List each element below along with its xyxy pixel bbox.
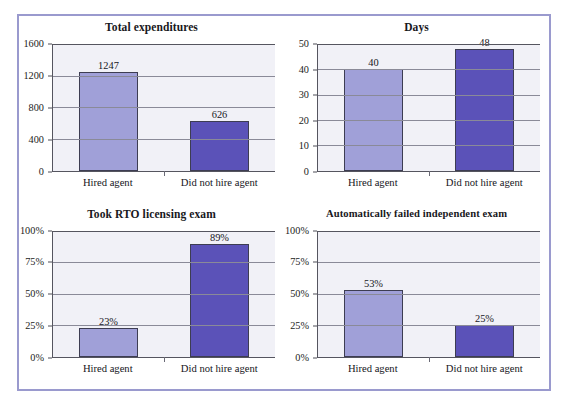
bar-value-label: 53%: [364, 279, 383, 289]
gridline: [53, 107, 275, 108]
chart-title: Days: [284, 21, 549, 33]
y-tick-label: 20: [299, 115, 309, 125]
gridline: [53, 231, 275, 232]
bar[interactable]: 1247: [79, 72, 139, 171]
y-tick-label: 25%: [290, 321, 309, 331]
chart-title: Total expenditures: [19, 21, 284, 33]
gridline: [53, 325, 275, 326]
x-tick-label: Did not hire agent: [164, 364, 276, 386]
y-tick-label: 50%: [25, 289, 44, 299]
plot-block: 040080012001600 1247626 Hired agentDid n…: [52, 44, 275, 172]
x-tick-label: Did not hire agent: [164, 178, 276, 200]
gridline: [318, 231, 540, 232]
y-tick-label: 25%: [25, 321, 44, 331]
chart-took-rto-licensing-exam: Took RTO licensing exam 0%25%50%75%100% …: [19, 203, 284, 390]
figure-panel: Total expenditures 040080012001600 12476…: [17, 14, 551, 391]
gridline: [53, 139, 275, 140]
gridline: [318, 262, 540, 263]
chart-grid: Total expenditures 040080012001600 12476…: [19, 16, 549, 389]
y-tick-label: 50%: [290, 289, 309, 299]
y-axis: 0%25%50%75%100%: [284, 231, 313, 359]
bar[interactable]: 25%: [455, 325, 515, 357]
y-tick-label: 75%: [25, 257, 44, 267]
y-tick-label: 100%: [285, 225, 309, 235]
bar-slot: 40: [318, 44, 429, 171]
bar-value-label: 40: [368, 58, 378, 68]
y-axis: 040080012001600: [19, 44, 48, 172]
x-axis: Hired agentDid not hire agent: [317, 172, 540, 200]
y-axis: 01020304050: [284, 44, 313, 172]
bar[interactable]: 626: [190, 121, 250, 170]
x-tick-label: Did not hire agent: [429, 178, 541, 200]
plot-area: 53%25%: [317, 231, 540, 359]
gridline: [318, 294, 540, 295]
gridline: [53, 44, 275, 45]
chart-days: Days 01020304050 4048 Hired agentDid not…: [284, 16, 549, 203]
gridline: [53, 262, 275, 263]
bar[interactable]: 48: [455, 49, 515, 170]
y-tick-label: 1200: [23, 71, 44, 81]
y-tick-label: 0: [39, 166, 44, 176]
y-tick-label: 40: [299, 64, 309, 74]
gridline: [318, 120, 540, 121]
bar-slot: 48: [429, 44, 540, 171]
chart-automatically-failed-independent-exam: Automatically failed independent exam 0%…: [284, 203, 549, 390]
y-tick-label: 1600: [23, 39, 44, 49]
plot-area: 1247626: [52, 44, 275, 172]
y-tick-label: 0: [304, 166, 309, 176]
gridline: [53, 76, 275, 77]
bar[interactable]: 23%: [79, 328, 139, 357]
gridline: [53, 294, 275, 295]
chart-title: Took RTO licensing exam: [19, 208, 284, 220]
y-tick-label: 400: [29, 134, 44, 144]
plot-area: 4048: [317, 44, 540, 172]
gridline: [318, 145, 540, 146]
chart-total-expenditures: Total expenditures 040080012001600 12476…: [19, 16, 284, 203]
y-tick-label: 50: [299, 39, 309, 49]
x-axis: Hired agentDid not hire agent: [317, 358, 540, 386]
gridline: [318, 325, 540, 326]
bar[interactable]: 53%: [344, 290, 404, 357]
x-tick-label: Hired agent: [317, 364, 429, 386]
x-tick-label: Hired agent: [52, 178, 164, 200]
bar-value-label: 626: [212, 110, 228, 120]
bar-series: 4048: [318, 44, 540, 171]
plot-block: 0%25%50%75%100% 53%25% Hired agentDid no…: [317, 231, 540, 359]
bar-value-label: 25%: [475, 314, 494, 324]
y-tick-label: 800: [29, 103, 44, 113]
y-tick-label: 100%: [20, 225, 44, 235]
gridline: [318, 69, 540, 70]
y-axis: 0%25%50%75%100%: [19, 231, 48, 359]
bar-value-label: 89%: [210, 233, 229, 243]
y-tick-label: 0%: [295, 353, 309, 363]
gridline: [318, 95, 540, 96]
bar-value-label: 1247: [98, 61, 119, 71]
plot-area: 23%89%: [52, 231, 275, 359]
chart-title: Automatically failed independent exam: [284, 208, 549, 219]
x-tick-label: Hired agent: [317, 178, 429, 200]
bar-value-label: 48: [479, 38, 489, 48]
y-tick-label: 0%: [30, 353, 44, 363]
gridline: [318, 44, 540, 45]
plot-block: 01020304050 4048 Hired agentDid not hire…: [317, 44, 540, 172]
x-tick-label: Did not hire agent: [429, 364, 541, 386]
plot-block: 0%25%50%75%100% 23%89% Hired agentDid no…: [52, 231, 275, 359]
y-tick-label: 10: [299, 141, 309, 151]
y-tick-label: 30: [299, 90, 309, 100]
x-tick-label: Hired agent: [52, 364, 164, 386]
x-axis: Hired agentDid not hire agent: [52, 172, 275, 200]
y-tick-label: 75%: [290, 257, 309, 267]
x-axis: Hired agentDid not hire agent: [52, 358, 275, 386]
